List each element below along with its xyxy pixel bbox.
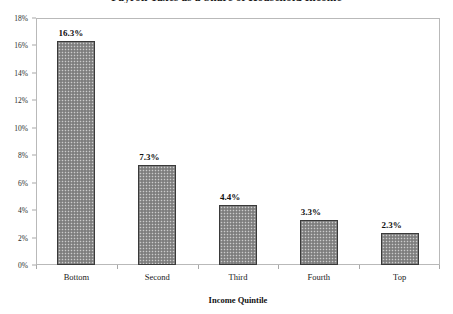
x-axis-tick-mark	[36, 265, 37, 269]
y-axis-tick-mark	[32, 72, 36, 73]
y-axis-tick-label: 2%	[18, 233, 28, 242]
x-axis-tick-mark	[278, 265, 279, 269]
x-axis-tick-mark	[198, 265, 199, 269]
x-axis-category-label: Second	[117, 272, 198, 282]
x-axis-tick-mark	[439, 265, 440, 269]
bar-second	[138, 165, 176, 265]
bar-top	[381, 233, 419, 265]
y-axis-tick-label: 10%	[14, 123, 28, 132]
x-axis-tick-mark	[117, 265, 118, 269]
y-axis-tick-mark	[32, 18, 36, 19]
x-axis-tick-mark	[359, 265, 360, 269]
y-axis-tick-label: 4%	[18, 206, 28, 215]
bar-value-label: 7.3%	[139, 152, 159, 162]
bar-value-label: 16.3%	[58, 28, 83, 38]
x-axis-category-label: Fourth	[278, 272, 359, 282]
x-axis-title: Income Quintile	[36, 295, 440, 305]
y-axis-tick-mark	[32, 100, 36, 101]
bar-fourth	[300, 220, 338, 265]
x-axis-category-label: Third	[198, 272, 279, 282]
y-axis: 18%16%14%12%10%8%6%4%2%0%	[0, 0, 36, 314]
y-axis-tick-mark	[32, 45, 36, 46]
y-axis-tick-mark	[32, 127, 36, 128]
chart-title: Payroll Taxes as a Share of Household In…	[0, 0, 453, 3]
y-axis-tick-label: 18%	[14, 14, 28, 23]
y-axis-tick-label: 14%	[14, 68, 28, 77]
x-axis-category-label: Bottom	[36, 272, 117, 282]
y-axis-tick-mark	[32, 210, 36, 211]
y-axis-tick-mark	[32, 155, 36, 156]
y-axis-tick-mark	[32, 182, 36, 183]
y-axis-tick-label: 0%	[18, 261, 28, 270]
bar-third	[219, 205, 257, 265]
bar-bottom	[57, 41, 95, 265]
y-axis-tick-label: 16%	[14, 41, 28, 50]
bar-value-label: 4.4%	[220, 192, 240, 202]
x-axis-category-label: Top	[359, 272, 440, 282]
y-axis-tick-label: 12%	[14, 96, 28, 105]
bar-chart-figure: Payroll Taxes as a Share of Household In…	[0, 0, 453, 314]
y-axis-tick-label: 8%	[18, 151, 28, 160]
bar-value-label: 3.3%	[301, 207, 321, 217]
y-axis-tick-mark	[32, 237, 36, 238]
bar-value-label: 2.3%	[382, 220, 402, 230]
y-axis-tick-label: 6%	[18, 178, 28, 187]
